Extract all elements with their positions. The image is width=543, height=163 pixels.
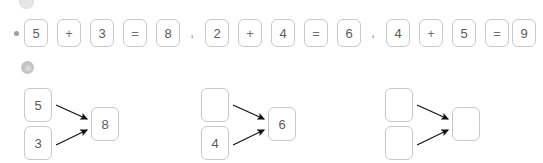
diagram1-arrow-bottom — [56, 130, 87, 145]
eq3-cell-operator-equals[interactable]: = — [485, 19, 509, 47]
eq2-cell-operator-plus[interactable]: + — [238, 19, 262, 47]
equation-row-bullet-icon — [14, 31, 19, 36]
diagram1-top-input-box[interactable]: 5 — [24, 88, 52, 122]
eq1-cell-addend1[interactable]: 5 — [24, 19, 48, 47]
eq2-cell-addend2[interactable]: 4 — [271, 19, 295, 47]
top-edge-marker-icon — [19, 0, 34, 9]
screenshot-canvas: 5 + 3 = 8 , 2 + 4 = 6 , 4 + 5 = 9 ◎ 5 3 … — [0, 0, 543, 163]
diagram3-top-input-box[interactable] — [385, 88, 413, 122]
diagram3-arrow-top — [417, 105, 448, 119]
eq2-cell-addend1[interactable]: 2 — [205, 19, 229, 47]
section-badge-icon: ◎ — [21, 61, 34, 74]
diagram3-arrow-bottom — [417, 130, 448, 145]
diagram1-arrow-top — [56, 105, 87, 119]
diagram2-arrow-top — [233, 105, 264, 119]
diagram1-output-box[interactable]: 8 — [91, 107, 119, 141]
equation-separator-1: , — [188, 26, 196, 39]
eq1-cell-operator-equals[interactable]: = — [123, 19, 147, 47]
eq3-cell-operator-plus[interactable]: + — [419, 19, 443, 47]
diagram1-bottom-input-box[interactable]: 3 — [24, 126, 52, 160]
eq2-cell-operator-equals[interactable]: = — [304, 19, 328, 47]
eq1-cell-sum[interactable]: 8 — [156, 19, 180, 47]
eq3-cell-addend1[interactable]: 4 — [386, 19, 410, 47]
diagram2-arrow-bottom — [233, 130, 264, 145]
diagram2-output-box[interactable]: 6 — [268, 107, 296, 141]
equation-separator-2: , — [369, 26, 377, 39]
diagram3-bottom-input-box[interactable] — [385, 126, 413, 160]
eq3-cell-addend2[interactable]: 5 — [452, 19, 476, 47]
eq3-cell-sum[interactable]: 9 — [512, 19, 536, 47]
eq1-cell-operator-plus[interactable]: + — [57, 19, 81, 47]
diagram3-output-box[interactable] — [452, 107, 480, 141]
eq1-cell-addend2[interactable]: 3 — [90, 19, 114, 47]
eq2-cell-sum[interactable]: 6 — [337, 19, 361, 47]
diagram2-bottom-input-box[interactable]: 4 — [201, 126, 229, 160]
diagram2-top-input-box[interactable] — [201, 88, 229, 122]
